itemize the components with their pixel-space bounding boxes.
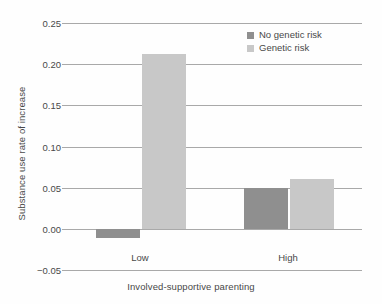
x-axis-category-label: Low xyxy=(131,252,148,263)
legend-item-label: Genetic risk xyxy=(259,42,309,54)
y-axis-tick-label: 0.00 xyxy=(43,223,62,234)
y-axis-tick-label: 0.20 xyxy=(43,59,62,70)
gridline xyxy=(66,270,362,271)
gridline xyxy=(66,23,362,24)
y-axis-tick-mark xyxy=(62,147,66,148)
y-axis-tick-mark xyxy=(62,270,66,271)
gridline xyxy=(66,105,362,106)
x-axis-category-label: High xyxy=(278,252,298,263)
legend-item-label: No genetic risk xyxy=(259,29,322,41)
bar xyxy=(244,188,288,229)
y-axis-tick-label: 0.10 xyxy=(43,141,62,152)
bar xyxy=(290,179,334,229)
y-axis-tick-label: 0.05 xyxy=(43,182,62,193)
y-axis-tick-label: −0.05 xyxy=(37,265,61,276)
bar-chart: Substance use rate of increase 0.250.200… xyxy=(0,0,382,304)
plot-area: 0.250.200.150.100.050.00−0.05 xyxy=(66,23,362,270)
y-axis-tick-label: 0.25 xyxy=(43,18,62,29)
legend-item: Genetic risk xyxy=(247,42,322,54)
bar xyxy=(96,229,140,238)
gridline xyxy=(66,64,362,65)
y-axis-tick-mark xyxy=(62,229,66,230)
y-axis-title: Substance use rate of increase xyxy=(16,49,27,259)
y-axis-tick-mark xyxy=(62,23,66,24)
y-axis-tick-label: 0.15 xyxy=(43,100,62,111)
legend-swatch-icon xyxy=(247,32,254,39)
x-axis-title: Involved-supportive parenting xyxy=(0,281,382,292)
y-axis-tick-mark xyxy=(62,64,66,65)
legend-swatch-icon xyxy=(247,45,254,52)
chart-legend: No genetic riskGenetic risk xyxy=(247,29,322,55)
gridline xyxy=(66,147,362,148)
y-axis-tick-mark xyxy=(62,188,66,189)
bar xyxy=(142,54,186,229)
legend-item: No genetic risk xyxy=(247,29,322,41)
y-axis-tick-mark xyxy=(62,105,66,106)
